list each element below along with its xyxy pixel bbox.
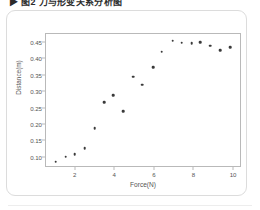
page-separator bbox=[8, 205, 252, 206]
data-point bbox=[132, 76, 135, 79]
data-point bbox=[190, 42, 193, 45]
data-points-layer bbox=[46, 34, 240, 166]
y-axis-tick-mark bbox=[42, 107, 45, 108]
y-axis-tick-label: 0.45 bbox=[30, 39, 42, 46]
x-axis-tick-mark bbox=[74, 167, 75, 170]
data-point bbox=[199, 41, 202, 44]
y-axis-tick-label: 0.20 bbox=[30, 120, 42, 127]
data-point bbox=[161, 50, 164, 53]
figure-caption-bar: ▶ 图2 力与形变关系分析图 bbox=[0, 0, 260, 9]
data-point bbox=[122, 110, 125, 113]
y-axis-tick-label: 0.35 bbox=[30, 71, 42, 78]
data-point bbox=[112, 94, 115, 97]
data-point bbox=[65, 156, 68, 159]
y-axis-tick-mark bbox=[42, 58, 45, 59]
x-axis-tick-label: 6 bbox=[152, 171, 155, 178]
y-axis-tick-label: 0.15 bbox=[30, 137, 42, 144]
x-axis-tick-label: 8 bbox=[192, 171, 195, 178]
data-point bbox=[180, 42, 183, 45]
y-axis-tick-label: 0.30 bbox=[30, 88, 42, 95]
x-axis-tick-label: 4 bbox=[113, 171, 116, 178]
x-axis-tick-label: 10 bbox=[230, 171, 237, 178]
figure-caption: ▶ 图2 力与形变关系分析图 bbox=[9, 0, 122, 8]
plot-area bbox=[45, 33, 241, 167]
y-axis-tick-label: 0.40 bbox=[30, 55, 42, 62]
data-point bbox=[55, 160, 58, 163]
x-axis-tick-mark bbox=[193, 167, 194, 170]
figure-card: 0.100.150.200.250.300.350.400.45 Distanc… bbox=[6, 10, 247, 196]
data-point bbox=[141, 83, 144, 86]
x-axis-tick-mark bbox=[233, 167, 234, 170]
data-point bbox=[209, 44, 212, 47]
scatter-chart: 0.100.150.200.250.300.350.400.45 Distanc… bbox=[7, 11, 248, 197]
y-axis-tick-label: 0.10 bbox=[30, 153, 42, 160]
y-axis-tick-label: 0.25 bbox=[30, 104, 42, 111]
y-axis-label: Distance(m) bbox=[15, 38, 22, 118]
y-axis-tick-mark bbox=[42, 42, 45, 43]
x-axis-tick-mark bbox=[153, 167, 154, 170]
data-point bbox=[73, 153, 76, 156]
y-axis-tick-mark bbox=[42, 91, 45, 92]
data-point bbox=[171, 39, 174, 42]
data-point bbox=[103, 101, 106, 104]
x-axis-tick-label: 2 bbox=[73, 171, 76, 178]
y-axis-tick-mark bbox=[42, 123, 45, 124]
data-point bbox=[93, 127, 96, 130]
y-axis-tick-mark bbox=[42, 140, 45, 141]
data-point bbox=[229, 46, 232, 49]
data-point bbox=[219, 49, 222, 52]
data-point bbox=[83, 147, 86, 150]
x-axis-tick-mark bbox=[114, 167, 115, 170]
y-axis-tick-mark bbox=[42, 74, 45, 75]
x-axis-label: Force(N) bbox=[45, 181, 241, 188]
data-point bbox=[152, 66, 155, 69]
y-axis-tick-mark bbox=[42, 156, 45, 157]
